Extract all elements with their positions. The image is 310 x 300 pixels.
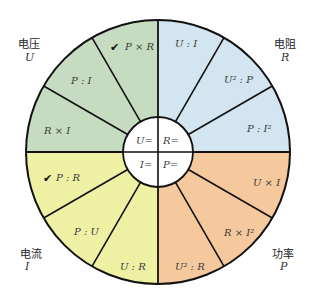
formula-voltage-3: R × I: [43, 125, 71, 136]
label-voltage-cn: 电压: [18, 38, 40, 51]
label-resistance-cn: 电阻: [274, 38, 296, 51]
center-label-power: P=: [162, 159, 178, 170]
label-voltage-symbol: U: [25, 51, 35, 64]
check-icon: ✔: [110, 41, 119, 54]
formula-voltage-1: P × R: [124, 41, 154, 52]
label-power-cn: 功率: [272, 247, 294, 261]
center-label-resistance: R=: [162, 135, 179, 146]
label-current-cn: 电流: [20, 247, 42, 261]
ohms-law-wheel: U= R= I= P= ✔ P × R P : I R × I U : I U²…: [0, 0, 310, 300]
formula-resistance-3: P : I²: [246, 123, 271, 134]
formula-current-1: U : R: [120, 261, 146, 272]
formula-power-1: U × I: [253, 177, 281, 188]
formula-power-2: R × I²: [223, 227, 254, 238]
formula-voltage-2: P : I: [70, 75, 92, 86]
formula-power-3: U² : R: [175, 261, 205, 272]
label-power-symbol: P: [279, 260, 288, 273]
formula-current-2: P : U: [73, 226, 99, 237]
check-icon: ✔: [43, 172, 52, 185]
label-resistance-symbol: R: [280, 51, 289, 64]
label-current-symbol: I: [24, 260, 30, 273]
center-label-voltage: U=: [136, 135, 153, 146]
formula-resistance-2: U² : P: [224, 74, 253, 85]
formula-current-3: P : R: [55, 172, 80, 183]
center-label-current: I=: [139, 159, 152, 170]
formula-resistance-1: U : I: [175, 38, 198, 49]
